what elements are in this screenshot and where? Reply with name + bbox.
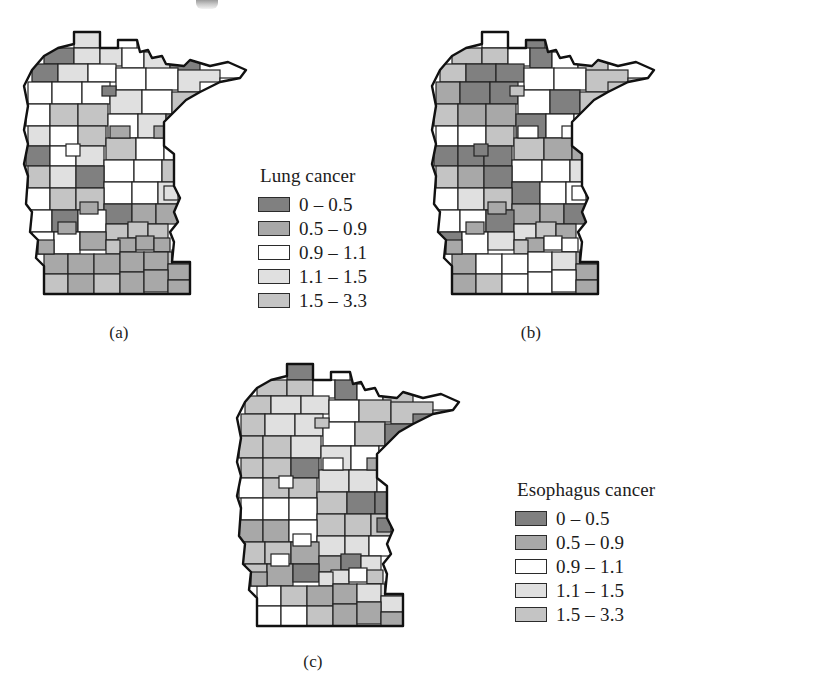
county-91 xyxy=(510,86,524,96)
county-70 xyxy=(281,586,307,606)
county-6 xyxy=(313,380,335,398)
county-66 xyxy=(319,572,333,586)
county-32 xyxy=(78,126,106,146)
minnesota-map-larynx xyxy=(422,26,662,316)
county-2 xyxy=(508,32,526,48)
county-79 xyxy=(144,270,168,292)
county-71 xyxy=(502,254,528,274)
county-5 xyxy=(287,380,313,396)
legend-rows-a: 0 – 0.50.5 – 0.90.9 – 1.11.1 – 1.51.5 – … xyxy=(258,193,367,313)
county-46 xyxy=(345,514,371,536)
county-52 xyxy=(540,204,564,224)
county-48 xyxy=(26,188,50,210)
legend-label-a-2: 0.5 – 0.9 xyxy=(299,219,367,238)
county-91 xyxy=(315,418,329,428)
county-84 xyxy=(110,126,130,138)
county-layer-b xyxy=(434,32,654,294)
county-36 xyxy=(239,478,263,498)
county-82 xyxy=(271,554,289,566)
county-64 xyxy=(267,564,293,586)
county-76 xyxy=(68,274,94,294)
county-layer-a xyxy=(26,32,246,294)
legend-row-c-2: 0.5 – 0.9 xyxy=(515,531,655,555)
county-31 xyxy=(458,126,486,146)
county-73 xyxy=(357,584,381,602)
legend-label-c-5: 1.5 – 3.3 xyxy=(556,605,624,624)
county-86 xyxy=(592,146,606,162)
county-36 xyxy=(26,146,50,166)
county-8 xyxy=(357,384,383,402)
county-26 xyxy=(78,104,108,126)
legend-row-c-1: 0 – 0.5 xyxy=(515,507,655,531)
county-45 xyxy=(317,514,345,536)
county-42 xyxy=(241,498,263,520)
county-13 xyxy=(329,400,359,422)
county-83 xyxy=(488,202,506,214)
county-22 xyxy=(142,90,172,114)
county-79 xyxy=(552,270,576,292)
county-13 xyxy=(524,68,554,90)
legend-label-c-2: 0.5 – 0.9 xyxy=(556,533,624,552)
panel-c: Esophagus cancer 0 – 0.50.5 – 0.90.9 – 1… xyxy=(205,352,645,694)
county-40 xyxy=(134,160,162,182)
county-4 xyxy=(452,48,482,64)
county-64 xyxy=(54,232,80,254)
county-72 xyxy=(120,252,144,272)
county-44 xyxy=(484,166,512,188)
swatch-bin-5 xyxy=(258,293,290,308)
county-60 xyxy=(118,238,136,252)
county-86 xyxy=(184,146,198,162)
county-83 xyxy=(293,534,311,546)
county-74 xyxy=(576,264,598,280)
county-60 xyxy=(526,238,544,252)
county-43 xyxy=(263,498,289,520)
county-14 xyxy=(554,68,586,90)
county-31 xyxy=(263,458,291,478)
county-72 xyxy=(333,584,357,604)
county-32 xyxy=(486,126,514,146)
county-62 xyxy=(562,238,578,252)
county-1 xyxy=(74,32,100,48)
county-32 xyxy=(291,458,319,478)
county-49 xyxy=(458,188,484,210)
county-82 xyxy=(466,222,484,234)
county-46 xyxy=(132,182,158,204)
county-22 xyxy=(355,422,385,446)
county-18 xyxy=(28,82,52,104)
county-12 xyxy=(301,396,329,414)
county-1 xyxy=(287,364,313,380)
county-87 xyxy=(174,166,188,182)
county-19 xyxy=(265,414,295,436)
county-43 xyxy=(50,166,76,188)
county-6 xyxy=(508,48,530,66)
county-49 xyxy=(263,520,289,542)
panel-a: Lung cancer 0 – 0.50.5 – 0.90.9 – 1.11.1… xyxy=(0,18,414,348)
county-74 xyxy=(168,264,190,280)
county-48 xyxy=(434,188,458,210)
county-2 xyxy=(100,32,118,48)
minnesota-map-esophagus xyxy=(227,358,467,648)
legend-c: Esophagus cancer 0 – 0.50.5 – 0.90.9 – 1… xyxy=(515,480,655,627)
county-70 xyxy=(476,254,502,274)
county-80 xyxy=(168,280,190,294)
county-19 xyxy=(52,82,82,104)
county-31 xyxy=(50,126,78,146)
minnesota-map-svg-a xyxy=(14,26,254,316)
county-18 xyxy=(241,414,265,436)
swatch-bin-3 xyxy=(515,559,547,574)
county-15 xyxy=(178,70,220,92)
county-61 xyxy=(349,568,367,582)
county-64 xyxy=(462,232,488,254)
county-78 xyxy=(333,604,357,626)
county-11 xyxy=(271,396,301,414)
legend-label-a-1: 0 – 0.5 xyxy=(299,195,353,214)
county-84 xyxy=(323,458,343,470)
county-90 xyxy=(279,476,293,488)
county-69 xyxy=(257,586,281,606)
county-45 xyxy=(104,182,132,204)
county-6 xyxy=(100,48,122,66)
county-19 xyxy=(460,82,490,104)
county-87 xyxy=(387,498,401,514)
county-72 xyxy=(528,252,552,272)
county-70 xyxy=(68,254,94,274)
